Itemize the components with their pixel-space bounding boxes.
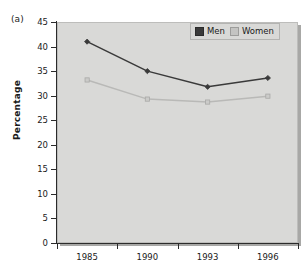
legend-entry-women: Women xyxy=(230,27,274,36)
data-point-marker xyxy=(206,100,210,104)
data-point-marker xyxy=(145,97,149,101)
data-point-marker xyxy=(266,94,270,98)
figure-panel-a: (a) Percentage 051015202530354045 198519… xyxy=(0,0,306,277)
chart-legend: MenWomen xyxy=(190,23,280,40)
data-point-marker xyxy=(205,84,210,89)
data-point-marker xyxy=(265,75,270,80)
data-point-marker xyxy=(145,69,150,74)
data-point-marker xyxy=(85,78,89,82)
legend-entry-men: Men xyxy=(195,27,225,36)
series-line xyxy=(87,80,268,102)
series-line xyxy=(87,42,268,87)
legend-swatch-icon xyxy=(230,27,239,36)
chart-data-layer xyxy=(0,0,306,277)
data-point-marker xyxy=(85,39,90,44)
legend-label: Men xyxy=(207,27,225,36)
legend-swatch-icon xyxy=(195,27,204,36)
series-men xyxy=(85,39,271,89)
legend-label: Women xyxy=(242,27,274,36)
